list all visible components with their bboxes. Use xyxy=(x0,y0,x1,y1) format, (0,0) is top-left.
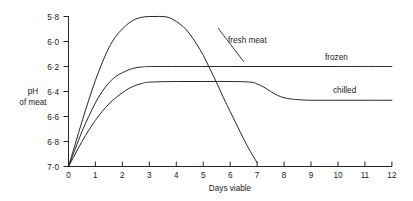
series-label-chilled: chilled xyxy=(333,86,357,95)
y-axis-title-line2: of meat xyxy=(19,98,47,107)
chart-plot-area: 5·8 6·0 6·2 6·4 6·6 6·8 7·0 pH of meat xyxy=(0,0,413,201)
series-label-fresh-meat: fresh meat xyxy=(228,36,267,45)
x-axis-ticks xyxy=(69,162,392,167)
y-tick-label-6-0: 6·0 xyxy=(47,38,59,47)
x-tick-label-8: 8 xyxy=(282,171,287,180)
y-tick-label-6-8: 6·8 xyxy=(47,138,59,147)
y-axis-ticks xyxy=(64,17,69,167)
x-tick-label-10: 10 xyxy=(333,171,343,180)
y-axis: 5·8 6·0 6·2 6·4 6·6 6·8 7·0 xyxy=(47,13,68,172)
y-tick-label-6-2: 6·2 xyxy=(47,63,59,72)
ph-of-meat-chart: 5·8 6·0 6·2 6·4 6·6 6·8 7·0 pH of meat xyxy=(0,0,413,201)
x-tick-label-3: 3 xyxy=(147,171,152,180)
fresh-meat-leader-line xyxy=(218,28,244,62)
x-tick-label-6: 6 xyxy=(228,171,233,180)
x-tick-label-12: 12 xyxy=(387,171,397,180)
x-tick-label-11: 11 xyxy=(361,171,370,180)
y-axis-title: pH of meat xyxy=(19,87,47,107)
x-axis-title: Days viable xyxy=(209,184,252,193)
x-tick-label-2: 2 xyxy=(120,171,125,180)
y-tick-label-6-4: 6·4 xyxy=(47,88,59,97)
x-tick-label-0: 0 xyxy=(66,171,71,180)
x-tick-label-4: 4 xyxy=(174,171,179,180)
x-tick-label-5: 5 xyxy=(201,171,206,180)
y-tick-label-5-8: 5·8 xyxy=(47,13,59,22)
y-tick-label-7-0: 7·0 xyxy=(47,163,59,172)
series-label-frozen: frozen xyxy=(325,53,348,62)
x-tick-label-7: 7 xyxy=(255,171,260,180)
y-axis-title-line1: pH xyxy=(28,87,39,96)
annotations: fresh meat frozen chilled xyxy=(218,28,357,95)
x-axis: 0 1 2 3 4 5 6 7 8 9 10 11 12 Days viable xyxy=(66,162,397,194)
x-tick-label-1: 1 xyxy=(93,171,98,180)
y-tick-label-6-6: 6·6 xyxy=(47,113,59,122)
x-tick-label-9: 9 xyxy=(309,171,314,180)
